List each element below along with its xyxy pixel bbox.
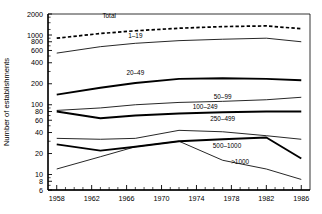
x-tick-label: 1978 (223, 194, 239, 203)
series-label-250-499: 250–499 (210, 115, 235, 122)
y-tick-label: 200 (31, 79, 43, 88)
y-tick-label: 20 (35, 149, 43, 158)
x-tick-label: 1974 (188, 194, 204, 203)
line-chart: 20001000800600400200100806040201086 1958… (0, 0, 322, 214)
series-label-20-49: 20–49 (126, 69, 144, 76)
x-tick-label: 1966 (119, 194, 135, 203)
x-tick-label: 1962 (84, 194, 100, 203)
x-tick-label: 1958 (49, 194, 65, 203)
y-tick-label: 6 (39, 186, 43, 195)
x-tick-label: 1986 (293, 194, 309, 203)
y-tick-label: 80 (35, 107, 43, 116)
x-tick-label: 1982 (258, 194, 274, 203)
series-label->1000: >1000 (231, 158, 249, 165)
y-axis-title-text: Number of establishments (2, 58, 11, 146)
series-line-500-1000 (57, 137, 302, 158)
x-tick-label: 1970 (154, 194, 170, 203)
series-line-20-49 (57, 78, 302, 94)
series-label-100-249: 100–249 (193, 103, 218, 110)
x-axis-ticks: 19581962196619701974197819821986 (49, 185, 310, 203)
series-line-100-249 (57, 112, 302, 119)
series-label-1-19: 1–19 (128, 32, 143, 39)
y-axis-title: Number of establishments (2, 58, 11, 146)
y-tick-label: 600 (31, 46, 43, 55)
series-line-Total (57, 26, 302, 38)
series-label-500-1000: 500–1000 (213, 142, 242, 149)
y-tick-label: 2000 (27, 10, 43, 19)
series-label-50-99: 50–99 (214, 93, 232, 100)
y-tick-label: 800 (31, 37, 43, 46)
y-tick-label: 40 (35, 128, 43, 137)
series-lines (57, 26, 302, 180)
series-line->1000 (57, 141, 302, 179)
y-tick-label: 60 (35, 116, 43, 125)
series-label-Total: Total (102, 12, 116, 19)
chart-container: 20001000800600400200100806040201086 1958… (0, 0, 322, 214)
series-line-1-19 (57, 38, 302, 53)
series-line-50-99 (57, 97, 302, 110)
y-tick-label: 8 (39, 177, 43, 186)
y-tick-label: 400 (31, 58, 43, 67)
